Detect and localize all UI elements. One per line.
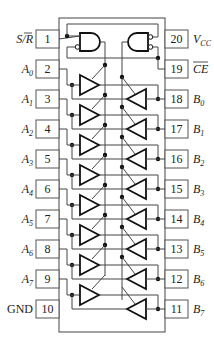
circuit-schematic: 1S/R2A03A14A25A36A47A58A69A710GND20VCC19… xyxy=(0,0,214,347)
buffer-b-to-a-4 xyxy=(127,209,146,229)
pin-14: 14B4 xyxy=(165,210,204,228)
pin-label: CE xyxy=(193,62,209,76)
a-pin-wire xyxy=(59,249,67,265)
pin-18: 18B0 xyxy=(165,90,204,108)
a-pin-wire xyxy=(59,219,67,235)
buffer-b-to-a-7 xyxy=(127,299,146,319)
pin-label: B0 xyxy=(193,92,204,108)
pin-20: 20VCC xyxy=(165,30,212,48)
pin-number: 17 xyxy=(171,122,183,136)
pin-3: 3A1 xyxy=(21,90,59,108)
pin-12: 12B6 xyxy=(165,270,204,288)
pin-label: S/R xyxy=(16,32,33,46)
buffer-a-to-b-7 xyxy=(80,285,99,305)
a-buf-out xyxy=(99,235,158,249)
pin-label: B4 xyxy=(193,212,204,228)
pin-label: B3 xyxy=(193,182,204,198)
pin-10: 10GND xyxy=(7,300,59,318)
a-buf-out xyxy=(99,115,158,129)
pin-label: A7 xyxy=(21,272,34,288)
buffer-a-to-b-4 xyxy=(80,195,99,215)
pin-label: B2 xyxy=(193,152,204,168)
buffer-a-to-b-1 xyxy=(80,105,99,125)
pin-1: 1S/R xyxy=(16,30,59,48)
a-pin-wire xyxy=(59,279,67,295)
pin-number: 12 xyxy=(171,272,183,286)
pin-number: 18 xyxy=(171,92,183,106)
a-buf-out xyxy=(99,205,158,219)
right-and-gate xyxy=(128,33,148,51)
pin-17: 17B1 xyxy=(165,120,204,138)
inverter-bubble xyxy=(75,45,80,50)
buffer-a-to-b-0 xyxy=(80,75,99,95)
pin-label: VCC xyxy=(193,32,212,48)
enable-a-diag xyxy=(92,95,105,109)
left-and-gate xyxy=(80,33,100,51)
pin-6: 6A4 xyxy=(21,180,59,198)
pin-number: 2 xyxy=(45,62,51,76)
pin-number: 20 xyxy=(171,32,183,46)
pin-label: A0 xyxy=(21,62,33,78)
buffer-a-to-b-2 xyxy=(80,135,99,155)
enable-a-diag xyxy=(92,245,105,259)
enable-a-diag xyxy=(92,125,105,139)
pin-number: 1 xyxy=(45,32,51,46)
a-pin-wire xyxy=(59,69,67,85)
pin-13: 13B5 xyxy=(165,240,204,258)
pin-4: 4A2 xyxy=(21,120,59,138)
a-buf-out xyxy=(99,145,158,159)
pin-label: A1 xyxy=(21,92,33,108)
pin-15: 15B3 xyxy=(165,180,204,198)
inverter-bubble xyxy=(148,35,153,40)
a-buf-out xyxy=(99,85,158,99)
pin-label: B1 xyxy=(193,122,204,138)
pin-7: 7A5 xyxy=(21,210,59,228)
pin-9: 9A7 xyxy=(21,270,59,288)
a-pin-wire xyxy=(59,159,67,175)
pin-number: 19 xyxy=(171,62,183,76)
pin-label: A2 xyxy=(21,122,33,138)
pin-label: A5 xyxy=(21,212,33,228)
pin-number: 5 xyxy=(45,152,51,166)
pin-label: GND xyxy=(7,302,33,316)
pin-number: 8 xyxy=(45,242,51,256)
pin-11: 11B7 xyxy=(165,300,205,318)
pin-16: 16B2 xyxy=(165,150,204,168)
a-buf-out xyxy=(99,175,158,189)
pin-label: A4 xyxy=(21,182,33,198)
enable-a-diag xyxy=(92,275,105,289)
a-pin-wire xyxy=(59,189,67,205)
pin-number: 6 xyxy=(45,182,51,196)
a-buf-out xyxy=(99,265,158,279)
pin-label: B5 xyxy=(193,242,204,258)
pin-number: 13 xyxy=(171,242,183,256)
enable-a-diag xyxy=(92,155,105,169)
buffer-b-to-a-1 xyxy=(127,119,146,139)
inverter-bubble xyxy=(148,45,153,50)
pin-label: A3 xyxy=(21,152,33,168)
pin-5: 5A3 xyxy=(21,150,59,168)
pin-number: 4 xyxy=(45,122,51,136)
pin-label: B6 xyxy=(193,272,204,288)
pin-number: 9 xyxy=(45,272,51,286)
enable-a-diag xyxy=(92,215,105,229)
pin-number: 11 xyxy=(171,302,183,316)
a-buf-out xyxy=(99,295,158,309)
pin-number: 7 xyxy=(45,212,51,226)
enable-a-diag xyxy=(92,185,105,199)
pin-number: 15 xyxy=(171,182,183,196)
enable-a-diag xyxy=(92,65,105,79)
buffer-a-to-b-6 xyxy=(80,255,99,275)
pin-number: 16 xyxy=(171,152,183,166)
pin-label: A6 xyxy=(21,242,33,258)
pin-19: 19CE xyxy=(165,60,209,78)
buffer-b-to-a-3 xyxy=(127,179,146,199)
a-pin-wire xyxy=(59,99,67,115)
buffer-b-to-a-5 xyxy=(127,239,146,259)
buffer-a-to-b-5 xyxy=(80,225,99,245)
pin-number: 10 xyxy=(42,302,54,316)
pin-number: 14 xyxy=(171,212,183,226)
pin-label: B7 xyxy=(193,302,205,318)
buffer-b-to-a-6 xyxy=(127,269,146,289)
pin-number: 3 xyxy=(45,92,51,106)
